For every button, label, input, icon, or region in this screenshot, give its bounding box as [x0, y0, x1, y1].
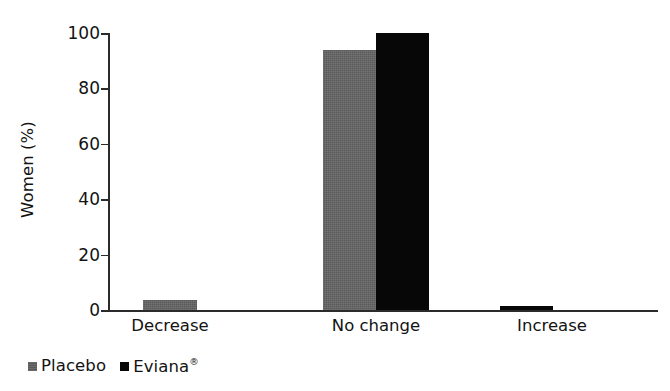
x-category-label-decrease: Decrease — [131, 316, 208, 335]
legend-item-eviana: Eviana® — [120, 356, 199, 376]
bar-chart-figure: Women (%) 0 20 40 60 80 100 Decrease No … — [0, 0, 670, 391]
plot-area — [108, 33, 658, 310]
x-axis-category-labels: Decrease No change Increase — [108, 316, 658, 342]
square-marker-icon — [28, 362, 37, 371]
chart-legend: Placebo Eviana® — [28, 356, 199, 376]
y-tick-label-100: 100 — [68, 23, 100, 43]
y-tick-label-80: 80 — [78, 78, 100, 98]
y-axis-tick-60 — [101, 144, 108, 146]
bar-placebo-decrease — [143, 300, 197, 310]
y-axis-tick-100 — [101, 33, 108, 35]
y-tick-label-40: 40 — [78, 189, 100, 209]
y-axis-tick-80 — [101, 88, 108, 90]
bar-eviana-no-change — [376, 33, 429, 310]
y-axis-tick-labels: 0 20 40 60 80 100 — [40, 33, 100, 310]
x-axis-line — [108, 310, 658, 312]
legend-item-placebo: Placebo — [28, 356, 106, 375]
x-category-label-no-change: No change — [332, 316, 420, 335]
legend-label-placebo: Placebo — [41, 356, 106, 375]
y-tick-label-60: 60 — [78, 134, 100, 154]
bar-eviana-increase — [500, 306, 553, 310]
y-axis-tick-0 — [101, 310, 108, 312]
y-axis-title: Women (%) — [18, 85, 37, 255]
registered-trademark-mark: ® — [189, 356, 199, 367]
y-axis-tick-40 — [101, 199, 108, 201]
y-tick-label-0: 0 — [89, 300, 100, 320]
legend-label-eviana-text: Eviana — [133, 357, 189, 376]
y-axis-tick-20 — [101, 255, 108, 257]
y-tick-label-20: 20 — [78, 245, 100, 265]
x-category-label-increase: Increase — [517, 316, 587, 335]
y-axis-line — [108, 33, 110, 310]
bar-placebo-no-change — [323, 50, 376, 310]
legend-label-eviana: Eviana® — [133, 356, 199, 376]
square-marker-icon — [120, 362, 129, 371]
